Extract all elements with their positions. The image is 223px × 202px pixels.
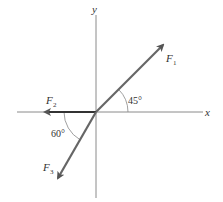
svg-text:2: 2 [53,101,57,109]
vector-f3-label: F 3 [42,161,54,176]
vector-f3-arrow [58,112,96,178]
angle-60-arc [64,112,80,140]
svg-text:F: F [42,161,50,173]
angle-45-label: 45° [128,95,142,106]
svg-text:3: 3 [50,168,54,176]
force-diagram: x y F 1 F 2 F 3 45° 60° [0,0,223,202]
svg-text:F: F [165,52,173,64]
y-axis-label: y [91,3,97,15]
angle-45-arc [119,89,128,112]
angle-60-label: 60° [51,128,65,139]
x-axis-label: x [204,106,210,118]
vector-f2-label: F 2 [45,94,57,109]
vector-f1-label: F 1 [165,52,177,67]
svg-text:1: 1 [173,59,177,67]
svg-text:F: F [45,94,53,106]
